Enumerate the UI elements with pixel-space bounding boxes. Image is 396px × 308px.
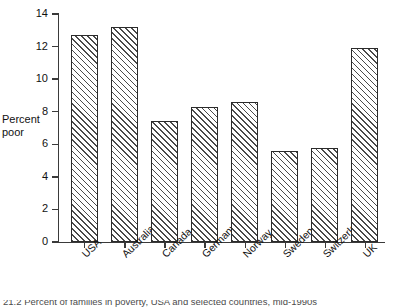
bar-sweden [271,151,298,242]
y-tick-label: 10 [26,73,48,84]
y-tick-mark [52,111,58,112]
y-tick-mark [52,13,58,14]
bar-uk [351,48,378,242]
y-tick-label: 8 [26,106,48,117]
y-tick-label: 0 [26,236,48,247]
y-tick-label: 14 [26,8,48,19]
y-tick-mark [52,241,58,242]
bar-norway [231,102,258,242]
x-tick-label-uk: UK [361,242,379,260]
y-tick-label: 6 [26,138,48,149]
figure-caption: 21.2 Percent of families in poverty, USA… [0,300,396,308]
y-tick-label: 4 [26,171,48,182]
y-tick-label: 2 [26,203,48,214]
y-axis-label: Percent poor [2,113,56,139]
y-tick-mark [52,209,58,210]
y-tick-mark [52,176,58,177]
figure-caption-text: 21.2 Percent of families in poverty, USA… [3,300,317,307]
y-tick-mark [52,144,58,145]
bar-germany [191,107,218,242]
bar-usa [71,35,98,242]
bar-chart-figure: Percent poor 02468101214 USAAustraliaCan… [0,0,396,308]
bar-canada [151,121,178,242]
bar-australia [111,27,138,242]
bar-switzerland [311,148,338,242]
y-axis-line [58,13,59,243]
y-tick-label: 12 [26,41,48,52]
y-tick-mark [52,46,58,47]
y-tick-mark [52,78,58,79]
